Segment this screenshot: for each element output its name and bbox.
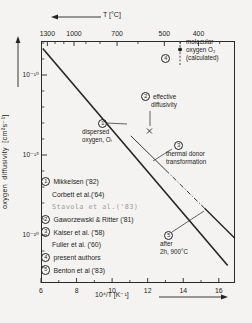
top-axis-tick-label: 1300 [40, 30, 55, 37]
callout-2-badge: 2 [141, 92, 150, 101]
legend-item: Corbett et al.('64) [41, 188, 181, 201]
x-axis-arrowhead [221, 295, 228, 300]
y-axis-tick-label: 10⁻²⁰ [22, 231, 39, 238]
legend-item: 1 Mikkelsen ('82) [41, 175, 181, 188]
legend-item: Stavola et al.('83) [41, 200, 181, 213]
marker-molecular-oxygen-point [178, 47, 182, 51]
top-axis-tick-label: 400 [193, 30, 205, 37]
y-axis-title: oxygen diffusivity [cm²s⁻¹] [0, 41, 12, 283]
top-axis-tick-label: 700 [111, 30, 123, 37]
top-axis-tick-label: 1000 [66, 30, 81, 37]
x-axis-tick-label: 12 [144, 287, 152, 294]
series-thermal-donor-solid [131, 136, 166, 170]
legend-item: Fuller et al. ('60) [41, 238, 181, 251]
annotation-effective-diffusivity: 2 effective diffusivity [141, 92, 177, 109]
callout-leader-line [106, 123, 127, 124]
x-axis-tick-label: 8 [75, 287, 79, 294]
legend-item: 3 Kaiser et al. ('58) [41, 226, 181, 239]
y-axis-tick-label: 10⁻¹⁵ [23, 151, 40, 158]
y-axis-tick-label: 10⁻¹⁰ [22, 71, 39, 78]
annotation-thermal-donor: thermal donor transformation [166, 150, 206, 166]
x-axis-title: 10⁴/T [K⁻¹] [95, 291, 129, 299]
oxygen-diffusivity-figure: 68101214161300100070050040010⁻¹⁰10⁻¹⁵10⁻… [0, 0, 252, 323]
legend-item: 2 Gaworzewski & Ritter ('81) [41, 213, 181, 226]
y-axis-arrowhead [16, 36, 21, 43]
x-axis-tick-label: 16 [215, 287, 223, 294]
legend-item: 4 present authors [41, 251, 181, 264]
legend-item: 5 Benton et al ('83) [41, 264, 181, 277]
annotation-dispersed-oxygen: dispersed oxygen, Oᵢ [82, 128, 112, 144]
annotation-molecular-oxygen: molecular oxygen O₂ (calculated) [186, 38, 219, 61]
legend: 1 Mikkelsen ('82) Corbett et al.('64) St… [41, 175, 181, 277]
top-axis-arrowhead [51, 15, 58, 20]
top-axis-title: T [°C] [103, 11, 121, 19]
x-axis-tick-label: 6 [39, 287, 43, 294]
series-after-anneal-segment [205, 208, 235, 238]
top-axis-tick-label: 500 [159, 30, 171, 37]
x-axis-tick-label: 14 [179, 287, 187, 294]
